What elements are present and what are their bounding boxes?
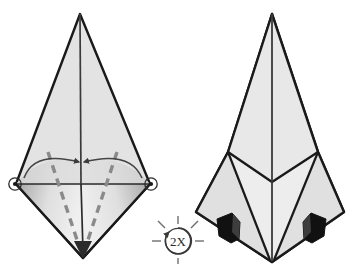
diagram-canvas: 2X — [0, 0, 354, 279]
left-figure-before-fold — [9, 14, 157, 259]
left-vertex-marker-dot — [13, 182, 17, 186]
origami-diagram: 2X — [0, 0, 354, 279]
right-vertex-marker-dot — [149, 182, 153, 186]
right-figure-after-fold — [196, 14, 344, 262]
repeat-ray-upper-left — [158, 221, 165, 228]
repeat-ray-upper-right — [191, 221, 198, 228]
left-center-crease-upper — [80, 14, 81, 184]
left-upper-body — [16, 14, 150, 184]
right-upper-panel — [228, 14, 318, 182]
repeat-badge-label: 2X — [170, 234, 187, 249]
repeat-badge-group: 2X — [152, 216, 204, 264]
